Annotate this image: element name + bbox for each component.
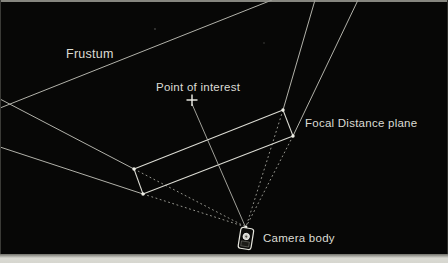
point-of-interest-sight-line: [192, 104, 245, 226]
focal-plane-corner-right-top: [281, 108, 284, 111]
page-bottom-strip: [0, 254, 448, 263]
lines-layer: [0, 0, 358, 228]
camera-body-label: Camera body: [263, 232, 335, 245]
frustum-edge-upper-left-outer: [0, 99, 134, 169]
focal-plane-bottom-edge: [143, 136, 293, 194]
scan-speck: [263, 42, 265, 44]
focal-plane-top-edge: [134, 110, 283, 169]
frustum-diagram-figure: Frustum Point of interest Focal Distance…: [0, 0, 448, 263]
diagram-svg: [0, 0, 448, 263]
focal-plane-corner-left-bottom: [141, 192, 144, 195]
frustum-edge-upper-left-inner: [134, 169, 246, 227]
frustum-edge-lower-right-inner: [246, 136, 293, 227]
focal-plane-right-edge: [283, 110, 293, 136]
frustum-edge-lower-left-outer: [0, 147, 143, 194]
focal-distance-plane-label: Focal Distance plane: [305, 117, 417, 130]
focal-plane-corner-left-top: [132, 167, 135, 170]
focal-plane-left-edge: [134, 169, 143, 194]
point-of-interest-label: Point of interest: [156, 81, 240, 94]
camera-body-back-panel: [241, 241, 250, 247]
camera-body-icon: [238, 227, 254, 250]
frustum-edge-upper-right-inner: [246, 110, 283, 227]
scan-left-edge: [0, 0, 1, 263]
scan-top-edge: [0, 0, 448, 2]
scan-speck: [154, 28, 156, 30]
focal-plane-corner-right-bottom: [291, 134, 294, 137]
frustum-edge-lower-left-inner: [143, 194, 246, 227]
frustum-edge-lower-right-outer: [293, 0, 358, 136]
frustum-edge-upper-right-outer: [283, 0, 315, 110]
frustum-label: Frustum: [66, 48, 114, 61]
